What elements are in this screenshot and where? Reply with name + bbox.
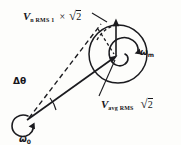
average-radical-icon: √: [141, 96, 148, 111]
noise-label-leader: [92, 13, 107, 22]
average-radicand: 2: [148, 98, 153, 110]
label-omega-m: ωm: [140, 42, 154, 58]
label-average-rms-vector: Vavg RMS√2: [101, 95, 153, 111]
label-delta-theta: Δθ: [13, 77, 26, 86]
omega-0-symbol: ω: [19, 134, 27, 144]
omega-m-subscript: m: [148, 51, 154, 58]
noise-operator: ×: [59, 11, 65, 22]
label-omega-0: ω0: [19, 129, 31, 145]
noise-subscript: n RMS 1: [30, 17, 54, 23]
omega-m-symbol: ω: [140, 47, 148, 57]
noise-component-dashed-chord: [98, 29, 114, 54]
noise-rms-dashed-vector: [29, 24, 101, 118]
average-subscript: avg RMS: [108, 105, 133, 111]
omega-m-spiral: [109, 38, 138, 66]
label-noise-rms-vector: Vn RMS 1×√2: [23, 7, 81, 23]
vertical-noise-arrowhead: [113, 19, 120, 27]
figure-container: Vn RMS 1×√2 Vavg RMS√2 ωm ω0 Δθ: [0, 0, 181, 145]
noise-radicand: 2: [76, 10, 81, 22]
omega-0-subscript: 0: [27, 138, 31, 145]
